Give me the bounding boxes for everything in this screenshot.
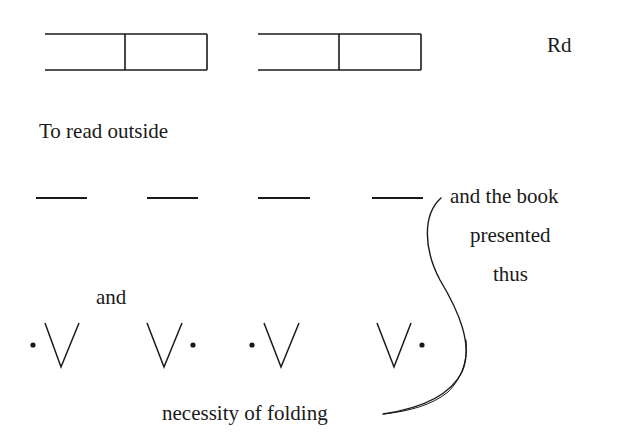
v-fold-icon xyxy=(377,323,411,367)
dot-icon xyxy=(30,342,35,347)
page-box-2 xyxy=(258,34,421,70)
fold-mark-2 xyxy=(147,323,196,367)
connector-curve xyxy=(383,198,466,414)
label-necessity-of-folding: necessity of folding xyxy=(162,403,328,424)
v-fold-icon xyxy=(45,323,79,367)
dot-icon xyxy=(249,342,254,347)
fold-mark-3 xyxy=(249,323,299,367)
v-fold-icon xyxy=(264,323,299,367)
label-and: and xyxy=(96,287,126,308)
label-rd: Rd xyxy=(547,35,572,56)
label-presented: presented xyxy=(470,225,550,246)
dot-icon xyxy=(190,342,195,347)
v-fold-icon xyxy=(147,323,182,367)
label-to-read-outside: To read outside xyxy=(39,121,168,142)
fold-mark-1 xyxy=(30,323,79,367)
label-and-the-book: and the book xyxy=(450,186,558,207)
dot-icon xyxy=(419,342,424,347)
fold-mark-4 xyxy=(377,323,425,367)
folding-diagram: Rd To read outside and the book presente… xyxy=(0,0,625,446)
label-thus: thus xyxy=(493,264,528,285)
page-box-1 xyxy=(45,34,207,70)
